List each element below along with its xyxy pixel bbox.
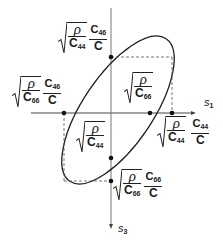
c-text: C: [135, 86, 144, 100]
denominator-c: C: [148, 187, 159, 200]
c-text: C: [87, 135, 96, 149]
numerator-rho: ρ: [73, 23, 82, 36]
numerator-rho: ρ: [27, 77, 36, 90]
fraction-c-ratio: C46 C: [89, 23, 107, 53]
c-subscript: 66: [32, 97, 40, 104]
denominator-c: C66: [123, 184, 141, 200]
label-inner-lower: ρ C44: [76, 121, 105, 152]
c-subscript: 44: [78, 43, 86, 50]
s1-arrow-icon: [191, 111, 196, 115]
point-s1-right-intercept: [148, 111, 153, 116]
s1-axis-label: s1: [204, 96, 213, 109]
denominator-c: C44: [86, 136, 104, 152]
denominator-c: C66: [134, 87, 152, 103]
s3-label-sub: 3: [124, 228, 128, 235]
radical-icon: [12, 76, 21, 107]
c-subscript: 66: [133, 190, 141, 197]
radical-icon: [58, 22, 67, 53]
s3-arrow-icon: [109, 224, 113, 229]
label-top-left: ρ C44 C46 C: [58, 22, 107, 53]
numerator-rho: ρ: [172, 117, 181, 130]
c-subscript: 66: [144, 93, 152, 100]
c-subscript: 66: [153, 176, 161, 183]
fraction-rho: ρ C44: [68, 23, 86, 53]
fraction-rho: ρ C44: [167, 117, 185, 147]
point-s1-left: [62, 111, 67, 116]
denominator-c: C66: [22, 91, 40, 107]
c-subscript: 44: [177, 137, 185, 144]
sqrt-expression: ρ C66: [12, 76, 41, 107]
c-text: C: [69, 36, 78, 50]
fraction-rho: ρ C66: [22, 77, 40, 107]
radical-icon: [157, 116, 166, 147]
c-subscript: 44: [96, 142, 104, 149]
c-text: C: [124, 183, 133, 197]
c-text: C: [168, 130, 177, 144]
fraction-c-ratio: C46 C: [43, 77, 61, 107]
c-subscript: 44: [200, 123, 208, 130]
sqrt-expression: ρ C66: [124, 72, 153, 103]
radical-icon: [113, 169, 122, 200]
radical-icon: [76, 121, 85, 152]
numerator-c: C46: [89, 23, 107, 39]
numerator-c: C46: [43, 77, 61, 93]
numerator-c: C44: [191, 117, 209, 133]
sqrt-expression: ρ C44: [58, 22, 87, 53]
numerator-c: C66: [144, 170, 162, 186]
c-text: C: [23, 90, 32, 104]
fraction-c-ratio: C66 C: [144, 170, 162, 200]
c-subscript: 46: [98, 29, 106, 36]
label-right: ρ C44 C44 C: [157, 116, 209, 147]
label-inner-upper: ρ C66: [124, 72, 153, 103]
denominator-c: C44: [68, 37, 86, 53]
fraction-rho: ρ C66: [123, 170, 141, 200]
fraction-rho: ρ C44: [86, 122, 104, 152]
fraction-rho: ρ C66: [134, 73, 152, 103]
point-s3-lower-intercept: [109, 156, 114, 161]
label-left: ρ C66 C46 C: [12, 76, 61, 107]
point-s3-upper: [109, 55, 114, 60]
numerator-rho: ρ: [91, 122, 100, 135]
numerator-rho: ρ: [139, 73, 148, 86]
numerator-rho: ρ: [128, 170, 137, 183]
c-subscript: 46: [52, 83, 60, 90]
denominator-c: C44: [167, 131, 185, 147]
fraction-c-ratio: C44 C: [191, 117, 209, 147]
sqrt-expression: ρ C44: [76, 121, 105, 152]
denominator-c: C: [93, 40, 104, 53]
label-bottom: ρ C66 C66 C: [113, 169, 162, 200]
s3-axis-label: s3: [118, 222, 127, 235]
sqrt-expression: ρ C66: [113, 169, 142, 200]
denominator-c: C: [195, 134, 206, 147]
sqrt-expression: ρ C44: [157, 116, 186, 147]
s1-label-sub: 1: [210, 102, 214, 109]
radical-icon: [124, 72, 133, 103]
denominator-c: C: [47, 94, 58, 107]
